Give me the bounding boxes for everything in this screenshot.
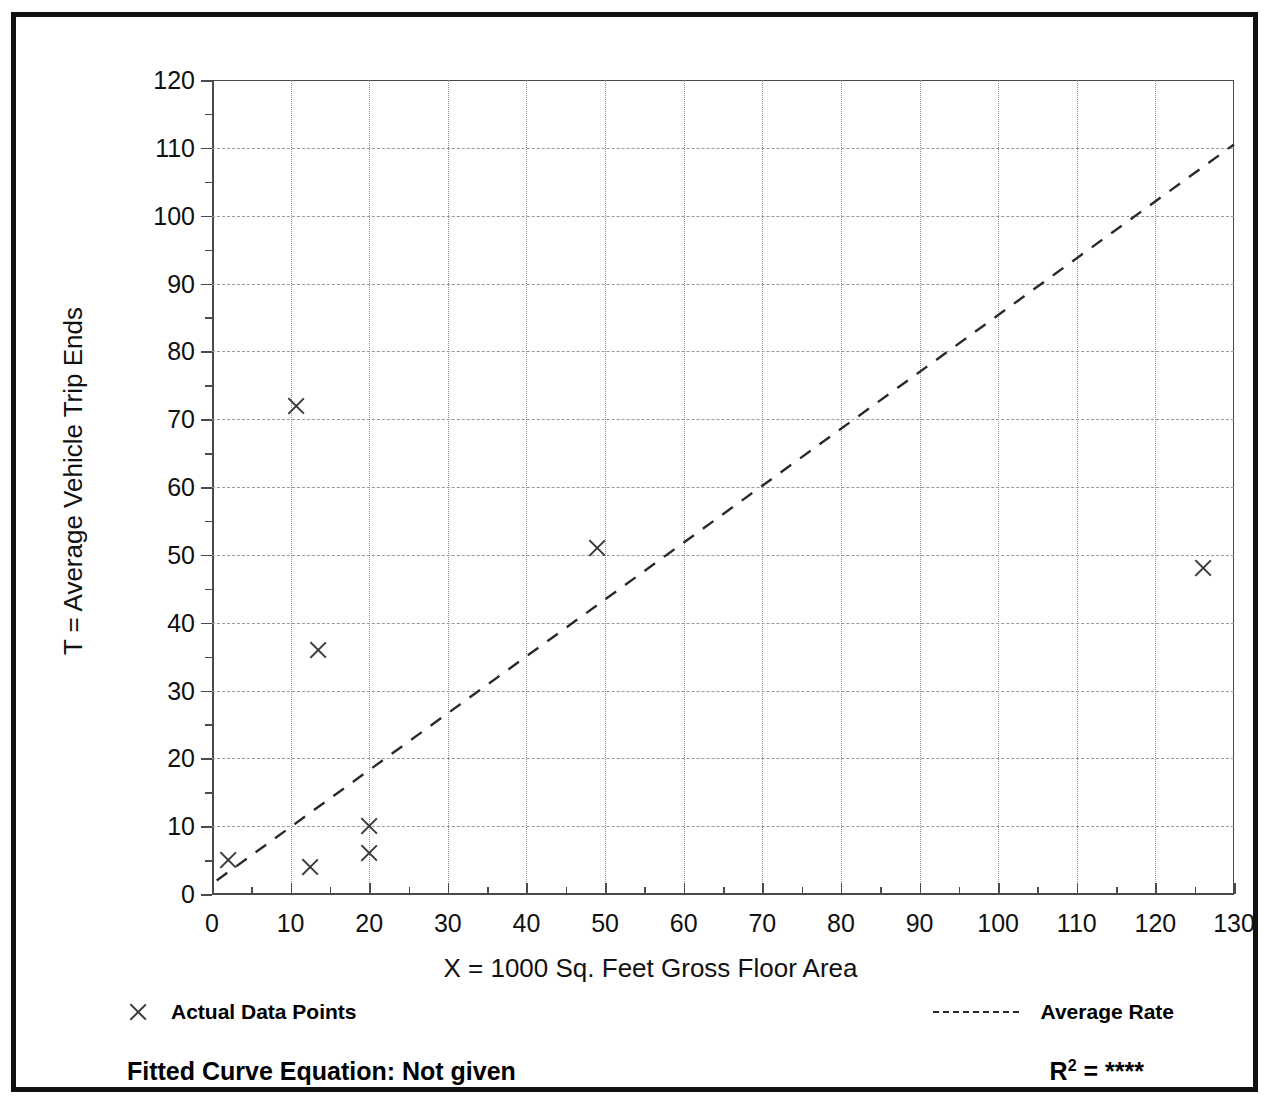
dashed-line-icon [933, 1011, 1019, 1013]
data-point-marker [586, 537, 608, 559]
r-squared-symbol: R [1050, 1057, 1068, 1085]
chart-figure: 0102030405060708090100110120130 01020304… [0, 0, 1269, 1106]
y-tick-major [201, 419, 212, 421]
x-axis-title: X = 1000 Sq. Feet Gross Floor Area [27, 953, 1269, 984]
y-tick-major [201, 555, 212, 557]
data-point-marker [307, 639, 329, 661]
y-tick-minor [205, 385, 212, 387]
y-tick-major [201, 623, 212, 625]
y-tick-label: 120 [153, 66, 195, 95]
x-tick-label: 100 [977, 909, 1019, 938]
y-tick-minor [205, 114, 212, 116]
data-point-marker [358, 815, 380, 837]
x-tick-label: 110 [1057, 909, 1097, 938]
x-tick-label: 30 [434, 909, 462, 938]
y-tick-label: 50 [167, 540, 195, 569]
y-tick-label: 100 [153, 201, 195, 230]
x-tick-label: 40 [513, 909, 541, 938]
y-tick-label: 70 [167, 405, 195, 434]
legend-label-average-rate: Average Rate [1041, 1000, 1174, 1024]
y-tick-major [201, 80, 212, 82]
plot-area: 0102030405060708090100110120130 01020304… [212, 80, 1234, 894]
x-tick-label: 60 [670, 909, 698, 938]
y-tick-label: 90 [167, 269, 195, 298]
data-point-marker [217, 849, 239, 871]
y-tick-major [201, 894, 212, 896]
y-tick-label: 80 [167, 337, 195, 366]
x-tick-label: 120 [1135, 909, 1177, 938]
data-point-marker [358, 842, 380, 864]
chart-legend: Actual Data Points Average Rate [27, 1000, 1269, 1044]
y-tick-label: 110 [155, 133, 195, 162]
y-tick-minor [205, 182, 212, 184]
r-squared-number: = **** [1084, 1057, 1144, 1085]
y-tick-major [201, 216, 212, 218]
legend-item-data-points: Actual Data Points [127, 1000, 357, 1024]
legend-label-data-points: Actual Data Points [171, 1000, 357, 1024]
r-squared-value: R2 = **** [1050, 1057, 1144, 1086]
y-tick-label: 40 [167, 608, 195, 637]
y-tick-minor [205, 589, 212, 591]
y-tick-minor [205, 317, 212, 319]
y-tick-major [201, 487, 212, 489]
figure-border: 0102030405060708090100110120130 01020304… [11, 12, 1258, 1092]
data-point-marker [1192, 557, 1214, 579]
y-tick-label: 30 [167, 676, 195, 705]
y-tick-minor [205, 250, 212, 252]
y-tick-minor [205, 453, 212, 455]
x-tick-label: 10 [277, 909, 305, 938]
y-tick-minor [205, 860, 212, 862]
fitted-curve-equation: Fitted Curve Equation: Not given [127, 1057, 516, 1086]
x-tick-label: 90 [906, 909, 934, 938]
data-point-marker [299, 856, 321, 878]
x-tick-label: 0 [205, 909, 219, 938]
y-tick-major [201, 148, 212, 150]
y-tick-major [201, 826, 212, 828]
y-tick-label: 20 [167, 744, 195, 773]
x-tick-label: 50 [591, 909, 619, 938]
average-rate-line [212, 80, 1234, 894]
x-tick-label: 130 [1213, 909, 1255, 938]
x-tick-label: 80 [827, 909, 855, 938]
x-tick-major [1234, 883, 1236, 894]
y-tick-minor [205, 657, 212, 659]
y-tick-major [201, 691, 212, 693]
r-squared-exponent: 2 [1068, 1057, 1077, 1074]
y-tick-minor [205, 724, 212, 726]
legend-item-average-rate: Average Rate [933, 1000, 1174, 1024]
data-point-marker [285, 395, 307, 417]
y-tick-minor [205, 521, 212, 523]
y-tick-major [201, 351, 212, 353]
y-axis-title: T = Average Vehicle Trip Ends [58, 307, 89, 655]
y-tick-label: 0 [181, 880, 195, 909]
chart-footer: Fitted Curve Equation: Not given R2 = **… [27, 1057, 1269, 1103]
x-tick-label: 20 [355, 909, 383, 938]
y-tick-label: 10 [167, 812, 195, 841]
y-tick-minor [205, 792, 212, 794]
y-tick-major [201, 284, 212, 286]
y-tick-label: 60 [167, 473, 195, 502]
x-tick-label: 70 [748, 909, 776, 938]
x-marker-icon [127, 1001, 149, 1023]
trend-line [217, 144, 1234, 880]
y-tick-major [201, 758, 212, 760]
